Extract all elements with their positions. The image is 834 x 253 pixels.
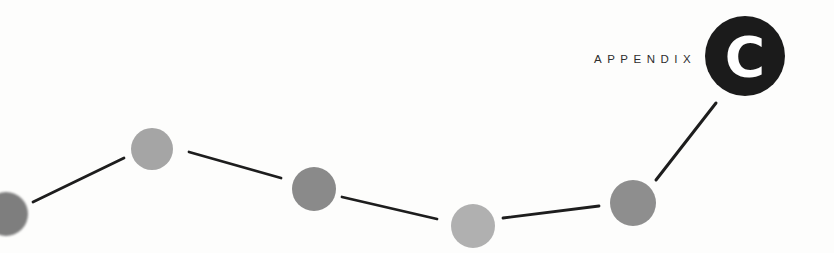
data-dot-5	[610, 180, 656, 226]
connector-line-4	[503, 206, 599, 218]
connector-line-1	[33, 158, 124, 202]
data-dot-4	[451, 204, 495, 248]
book-page: APPENDIX C	[0, 0, 834, 253]
connector-line-5	[656, 103, 716, 180]
connector-line-2	[189, 152, 281, 178]
appendix-opener-graphic: APPENDIX C	[0, 0, 834, 253]
data-dot-2	[131, 128, 173, 170]
data-dot-1	[0, 192, 28, 236]
connector-line-3	[342, 197, 437, 219]
data-dot-3	[292, 167, 336, 211]
appendix-label: APPENDIX	[594, 53, 696, 65]
appendix-letter: C	[725, 25, 765, 89]
